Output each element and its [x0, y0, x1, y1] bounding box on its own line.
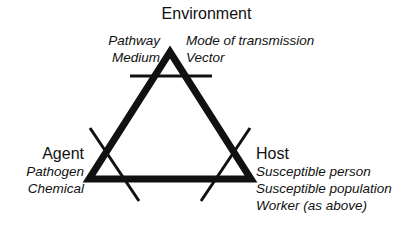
host-item-susceptible-population: Susceptible population — [256, 180, 392, 197]
host-item-worker: Worker (as above) — [256, 197, 392, 214]
host-label: Host — [256, 144, 392, 163]
node-agent: Agent Pathogen Chemical — [0, 144, 84, 197]
agent-item-chemical: Chemical — [0, 180, 84, 197]
node-environment: Environment — [0, 4, 413, 23]
environment-item-mode-of-transmission: Mode of transmission — [186, 32, 314, 49]
triangle-outline — [89, 52, 251, 179]
agent-item-pathogen: Pathogen — [0, 163, 84, 180]
environment-item-medium: Medium — [0, 49, 160, 66]
environment-item-pathway: Pathway — [0, 32, 160, 49]
epidemiologic-triangle-diagram: Environment Pathway Medium Mode of trans… — [0, 0, 413, 232]
host-item-susceptible-person: Susceptible person — [256, 163, 392, 180]
environment-item-vector: Vector — [186, 49, 314, 66]
environment-label: Environment — [162, 5, 252, 22]
environment-right-items: Mode of transmission Vector — [186, 32, 314, 66]
agent-label: Agent — [0, 144, 84, 163]
environment-left-items: Pathway Medium — [0, 32, 160, 66]
node-host: Host Susceptible person Susceptible popu… — [256, 144, 392, 214]
